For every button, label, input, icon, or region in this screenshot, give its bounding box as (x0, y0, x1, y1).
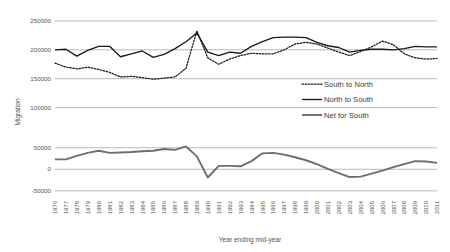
y-tick-label: 0 (48, 165, 52, 172)
x-tick-label: 1990 (205, 200, 211, 214)
x-tick-label: 1985 (150, 200, 156, 214)
x-tick-label: 1983 (129, 200, 135, 214)
x-tick-label: 1995 (260, 200, 266, 214)
x-tick-label: 1984 (140, 200, 146, 214)
y-tick-label: 50000 (34, 144, 52, 151)
y-tick-label: -50000 (32, 187, 52, 194)
x-tick-label: 1992 (227, 200, 233, 214)
migration-chart: 250000200000150000100000 500000-50000 19… (0, 0, 450, 252)
x-tick-label: 2002 (336, 200, 342, 214)
y-tick-label: 250000 (30, 17, 51, 24)
y-tick-label: 200000 (30, 46, 51, 53)
legend-label: South to North (324, 80, 373, 89)
y-axis-title: Migration (14, 98, 22, 125)
x-tick-label: 1993 (238, 200, 244, 214)
x-tick-label: 1978 (74, 200, 80, 214)
x-tick-label: 1994 (249, 200, 255, 214)
x-tick-label: 2000 (314, 200, 320, 214)
legend-label: North to South (324, 95, 373, 104)
x-tick-label: 1979 (85, 200, 91, 214)
chart-legend: South to NorthNorth to SouthNet for Sout… (302, 80, 373, 120)
x-tick-label: 1998 (292, 200, 298, 214)
x-tick-label: 1982 (118, 200, 124, 214)
x-tick-label: 1996 (270, 200, 276, 214)
series-line-south-to-north (55, 31, 437, 80)
x-tick-label: 2011 (434, 200, 440, 214)
chart-canvas: 250000200000150000100000 500000-50000 19… (0, 0, 450, 252)
x-tick-label: 1997 (281, 200, 287, 214)
lower-panel-ytick-labels: 500000-50000 (32, 144, 52, 194)
x-axis-title: Year ending mid-year (219, 236, 282, 244)
x-tick-label: 1976 (52, 200, 58, 214)
lower-panel-gridlines (55, 148, 437, 191)
x-tick-label: 2003 (347, 200, 353, 214)
series-line-net-for-south (55, 146, 437, 177)
x-tick-label: 2008 (401, 200, 407, 214)
x-tick-label: 1987 (172, 200, 178, 214)
x-tick-label: 1989 (194, 200, 200, 214)
x-tick-label: 2006 (380, 200, 386, 214)
x-tick-label: 2004 (358, 200, 364, 214)
series-line-north-to-south (55, 33, 437, 57)
legend-label: Net for South (324, 111, 369, 120)
x-tick-label: 2005 (369, 200, 375, 214)
y-tick-label: 100000 (30, 104, 51, 111)
x-tick-label: 2009 (412, 200, 418, 214)
x-tick-label: 2010 (423, 200, 429, 214)
x-tick-label: 2001 (325, 200, 331, 214)
x-tick-label: 1981 (107, 200, 113, 214)
x-tick-label: 2007 (391, 200, 397, 214)
x-tick-label: 1980 (96, 200, 102, 214)
upper-panel-gridlines (55, 21, 437, 108)
x-axis-tick-labels: 1976197719781979198019811982198319841985… (52, 200, 440, 214)
x-tick-label: 1991 (216, 200, 222, 214)
x-tick-label: 1986 (161, 200, 167, 214)
x-tick-label: 1977 (63, 200, 69, 214)
y-tick-label: 150000 (30, 75, 51, 82)
x-tick-label: 1988 (183, 200, 189, 214)
x-tick-label: 1999 (303, 200, 309, 214)
upper-panel-ytick-labels: 250000200000150000100000 (30, 17, 51, 111)
